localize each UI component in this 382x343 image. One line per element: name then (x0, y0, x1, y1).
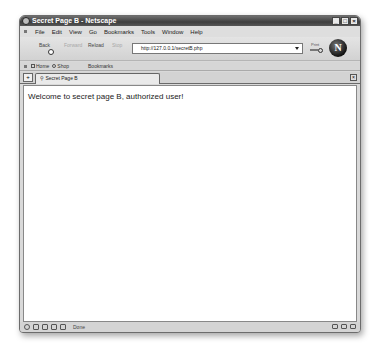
bookmarks-menu-label: Bookmarks (88, 63, 113, 69)
menu-go[interactable]: Go (89, 29, 97, 35)
chat-icon[interactable] (60, 324, 66, 330)
print-icon-bar (310, 49, 318, 51)
tab-secret-page-b[interactable]: ⚲ Secret Page B (35, 73, 160, 84)
bookmark-home-label: Home (36, 63, 49, 69)
menu-window[interactable]: Window (162, 29, 183, 35)
back-button[interactable]: Back (39, 42, 50, 48)
title-bar[interactable]: Secret Page B - Netscape _ □ × (20, 16, 360, 26)
status-text: Done (73, 324, 85, 330)
security-lock-icon[interactable] (350, 324, 356, 329)
menu-bookmarks[interactable]: Bookmarks (104, 29, 134, 35)
mail-icon[interactable] (33, 324, 39, 330)
bookmarks-toolbar: Home Shop Bookmarks (20, 62, 360, 71)
new-tab-button[interactable]: + (23, 73, 33, 82)
window-title: Secret Page B - Netscape (32, 17, 116, 24)
shop-icon (52, 64, 56, 68)
menu-view[interactable]: View (69, 29, 82, 35)
url-dropdown-icon[interactable] (295, 47, 299, 50)
menu-help[interactable]: Help (190, 29, 202, 35)
popup-blocker-icon[interactable] (341, 324, 347, 329)
navigation-toolbar: Back Forward Reload Stop http://127.0.0.… (20, 37, 360, 61)
url-text: http://127.0.0.1/secretB.php (141, 45, 202, 51)
netscape-app-icon (22, 17, 30, 25)
online-status-icon[interactable] (332, 324, 338, 329)
reload-button[interactable]: Reload (88, 42, 104, 48)
menu-tools[interactable]: Tools (141, 29, 155, 35)
menu-bar: File Edit View Go Bookmarks Tools Window… (20, 26, 360, 37)
window-controls: _ □ × (332, 17, 358, 25)
page-content: Welcome to secret page B, authorized use… (23, 85, 357, 322)
welcome-message: Welcome to secret page B, authorized use… (28, 92, 184, 101)
bookmark-shop[interactable]: Shop (52, 63, 69, 69)
tab-bar: + ⚲ Secret Page B × (20, 72, 360, 84)
print-button[interactable]: Print (311, 42, 319, 47)
browser-window: Secret Page B - Netscape _ □ × File Edit… (19, 15, 361, 333)
netscape-logo[interactable]: N (329, 39, 347, 57)
url-input[interactable]: http://127.0.0.1/secretB.php (132, 43, 303, 54)
stop-button[interactable]: Stop (112, 42, 122, 48)
maximize-button[interactable]: □ (341, 17, 349, 25)
toolbar-grip-icon[interactable] (24, 30, 27, 33)
status-bar: Done (20, 322, 360, 332)
forward-button[interactable]: Forward (64, 42, 82, 48)
close-tab-button[interactable]: × (350, 74, 357, 81)
menu-edit[interactable]: Edit (52, 29, 62, 35)
bookmark-shop-label: Shop (57, 63, 69, 69)
home-icon (31, 64, 35, 68)
composer-icon[interactable] (42, 324, 48, 330)
bookmarks-menu-button[interactable]: Bookmarks (88, 63, 113, 69)
minimize-button[interactable]: _ (332, 17, 340, 25)
status-indicators (332, 324, 356, 329)
print-icon[interactable] (318, 48, 323, 53)
bookmark-home[interactable]: Home (31, 63, 49, 69)
menu-file[interactable]: File (35, 29, 45, 35)
toolbar-grip-icon[interactable] (24, 65, 27, 68)
back-arrow-icon[interactable] (48, 49, 54, 55)
navigator-icon[interactable] (24, 324, 30, 330)
address-book-icon[interactable] (51, 324, 57, 330)
close-button[interactable]: × (350, 17, 358, 25)
tab-label: Secret Page B (45, 75, 77, 81)
